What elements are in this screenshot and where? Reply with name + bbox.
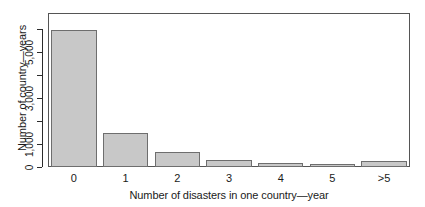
- bar: [361, 161, 407, 167]
- y-axis-tick: [37, 29, 42, 30]
- bar: [103, 133, 149, 167]
- y-axis-tick-label: 5,000: [24, 32, 35, 72]
- bar: [310, 164, 356, 167]
- y-axis-tick: [37, 98, 42, 99]
- bar: [155, 152, 201, 167]
- y-axis-tick: [37, 75, 42, 76]
- y-axis-tick: [37, 121, 42, 122]
- y-axis-tick-label: 1,000: [24, 124, 35, 164]
- bar-chart-figure: Number of country—years 01,0003,0005,000…: [0, 0, 425, 207]
- x-axis-tick-label: >5: [354, 172, 414, 185]
- bar: [51, 30, 97, 167]
- y-axis-tick-label: 3,000: [24, 78, 35, 118]
- y-axis-spine: [42, 29, 43, 167]
- x-axis-title: Number of disasters in one country—year: [48, 188, 410, 202]
- y-axis-tick: [37, 52, 42, 53]
- y-axis-tick: [37, 167, 42, 168]
- bar: [258, 163, 304, 167]
- bar: [206, 160, 252, 167]
- y-axis-tick: [37, 144, 42, 145]
